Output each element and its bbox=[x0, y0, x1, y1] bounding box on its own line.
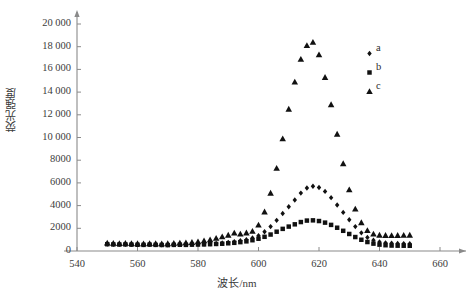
fluorescence-spectrum-chart: 荧光强度 波长/nm 0200040006000800010 00012 000… bbox=[0, 0, 474, 298]
legend-marker-diamond bbox=[364, 48, 375, 59]
data-point bbox=[310, 39, 317, 45]
data-point bbox=[317, 219, 321, 223]
data-point bbox=[273, 165, 280, 171]
y-tick-label: 12 000 bbox=[11, 108, 71, 119]
data-point bbox=[406, 232, 413, 238]
data-point bbox=[346, 186, 353, 192]
y-axis-arrow bbox=[74, 10, 79, 17]
x-axis-label: 波长/nm bbox=[0, 274, 474, 290]
data-point bbox=[316, 51, 323, 57]
data-point bbox=[213, 235, 220, 241]
y-tick-label: 14 000 bbox=[11, 85, 71, 96]
x-tick-label: 640 bbox=[372, 258, 388, 269]
y-tick-label: 16 000 bbox=[11, 62, 71, 73]
x-tick-label: 660 bbox=[432, 258, 448, 269]
data-point bbox=[323, 189, 327, 194]
plot-area bbox=[0, 0, 474, 298]
data-point bbox=[311, 184, 315, 189]
x-tick-label: 580 bbox=[190, 258, 206, 269]
data-point bbox=[280, 211, 284, 216]
data-point bbox=[287, 224, 291, 228]
data-point bbox=[305, 185, 309, 190]
data-point bbox=[304, 42, 311, 48]
legend-label: b bbox=[376, 61, 381, 72]
data-point bbox=[298, 56, 305, 62]
data-point bbox=[353, 235, 357, 239]
y-tick-label: 0 bbox=[11, 244, 71, 255]
series-a bbox=[105, 184, 412, 248]
y-tick-label: 10 000 bbox=[11, 131, 71, 142]
legend-marker-triangle bbox=[364, 86, 375, 97]
data-point bbox=[262, 235, 266, 239]
data-point bbox=[267, 190, 274, 196]
data-point bbox=[287, 204, 291, 209]
data-point bbox=[376, 232, 383, 238]
data-point bbox=[255, 222, 262, 228]
data-point bbox=[243, 230, 250, 236]
data-point bbox=[328, 101, 335, 107]
data-point bbox=[365, 240, 369, 244]
data-point bbox=[340, 160, 347, 166]
data-point bbox=[268, 232, 272, 236]
data-point bbox=[365, 235, 369, 240]
x-tick-label: 600 bbox=[251, 258, 267, 269]
data-point bbox=[268, 224, 272, 229]
data-point bbox=[347, 217, 351, 222]
data-point bbox=[293, 197, 297, 202]
x-tick-label: 540 bbox=[69, 258, 85, 269]
data-point bbox=[329, 223, 333, 227]
y-tick-label: 20 000 bbox=[11, 17, 71, 28]
data-point bbox=[341, 210, 345, 215]
data-point bbox=[370, 231, 377, 237]
data-point bbox=[388, 232, 395, 238]
data-point bbox=[359, 238, 363, 242]
legend-label: a bbox=[376, 42, 381, 53]
data-point bbox=[394, 232, 401, 238]
legend-label: c bbox=[376, 80, 381, 91]
data-point bbox=[231, 230, 238, 236]
y-tick-label: 6000 bbox=[11, 176, 71, 187]
data-point bbox=[317, 185, 321, 190]
data-point bbox=[261, 209, 268, 215]
data-point bbox=[262, 229, 266, 234]
data-point bbox=[274, 218, 278, 223]
data-point bbox=[364, 227, 371, 233]
data-point bbox=[352, 206, 359, 212]
data-point bbox=[334, 131, 341, 137]
data-point bbox=[249, 228, 256, 234]
data-point bbox=[341, 229, 345, 233]
data-point bbox=[400, 232, 407, 238]
data-point bbox=[335, 225, 339, 229]
data-point bbox=[293, 222, 297, 226]
legend-marker-square bbox=[364, 67, 375, 78]
data-point bbox=[329, 195, 333, 200]
data-point bbox=[359, 230, 363, 235]
y-tick-label: 8000 bbox=[11, 153, 71, 164]
data-point bbox=[323, 220, 327, 224]
data-point bbox=[285, 106, 292, 112]
data-point bbox=[219, 234, 226, 240]
y-tick-label: 18 000 bbox=[11, 40, 71, 51]
y-tick-label: 4000 bbox=[11, 199, 71, 210]
data-point bbox=[225, 232, 232, 238]
x-tick-label: 560 bbox=[130, 258, 146, 269]
data-point bbox=[311, 218, 315, 222]
data-point bbox=[382, 232, 389, 238]
data-point bbox=[353, 224, 357, 229]
data-point bbox=[280, 227, 284, 231]
data-point bbox=[299, 190, 303, 195]
data-point bbox=[237, 231, 244, 237]
data-point bbox=[358, 219, 365, 225]
data-point bbox=[292, 79, 299, 85]
data-point bbox=[322, 74, 329, 80]
y-tick-label: 2000 bbox=[11, 221, 71, 232]
data-point bbox=[347, 232, 351, 236]
x-tick-label: 620 bbox=[311, 258, 327, 269]
data-point bbox=[305, 218, 309, 222]
data-point bbox=[299, 220, 303, 224]
x-axis-arrow bbox=[459, 248, 466, 253]
data-point bbox=[335, 202, 339, 207]
data-point bbox=[274, 229, 278, 233]
data-point bbox=[279, 135, 286, 141]
